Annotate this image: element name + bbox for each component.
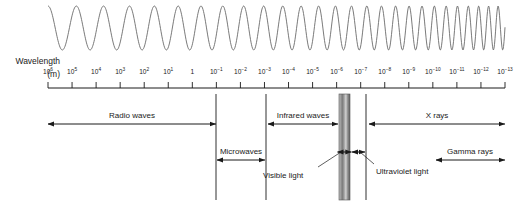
sine-wave-graphic	[48, 6, 505, 50]
axis-ticks	[48, 82, 505, 88]
axis-tick-label: 10−2	[234, 69, 247, 76]
visible-light-label: Visible light	[263, 172, 303, 180]
axis-tick-label: 10−7	[354, 69, 367, 76]
microwaves-label: Microwaves	[220, 148, 262, 156]
axis-tick-label: 10−1	[210, 69, 223, 76]
x-rays-label: X rays	[426, 112, 449, 120]
axis-tick-label: 10−3	[258, 69, 271, 76]
wavelength-axis	[48, 82, 505, 88]
ultraviolet-light-marker	[352, 152, 374, 164]
axis-tick-label: 106	[43, 69, 53, 76]
axis-tick-label: 10−8	[378, 69, 391, 76]
axis-tick-label: 10−10	[425, 69, 440, 76]
radio-waves-label: Radio waves	[109, 112, 155, 120]
axis-tick-label: 10−13	[497, 69, 512, 76]
axis-tick-label: 103	[115, 69, 125, 76]
axis-tick-label: 10−6	[330, 69, 343, 76]
axis-tick-label: 104	[91, 69, 101, 76]
axis-title-line1: Wavelength	[8, 57, 60, 66]
axis-tick-label: 105	[67, 69, 77, 76]
axis-tick-label: 102	[139, 69, 149, 76]
band-range-arrows	[48, 124, 505, 160]
visible-light-color-band	[318, 94, 352, 200]
visible-light-leader-line	[318, 152, 341, 167]
axis-tick-label: 10−4	[282, 69, 295, 76]
electromagnetic-spectrum-figure: Wavelength (m) 106105104103102101110−110…	[0, 0, 528, 210]
axis-tick-label: 10−9	[402, 69, 415, 76]
axis-tick-label: 1	[190, 69, 194, 76]
gamma-rays-label: Gamma rays	[447, 148, 493, 156]
axis-tick-label: 10−11	[449, 69, 464, 76]
infrared-waves-label: Infrared waves	[277, 112, 329, 120]
ultraviolet-light-label: Ultraviolet light	[376, 168, 428, 176]
axis-tick-label: 10−12	[473, 69, 488, 76]
axis-tick-label: 10−5	[306, 69, 319, 76]
axis-tick-label: 101	[163, 69, 173, 76]
ultraviolet-leader-line	[360, 152, 374, 164]
